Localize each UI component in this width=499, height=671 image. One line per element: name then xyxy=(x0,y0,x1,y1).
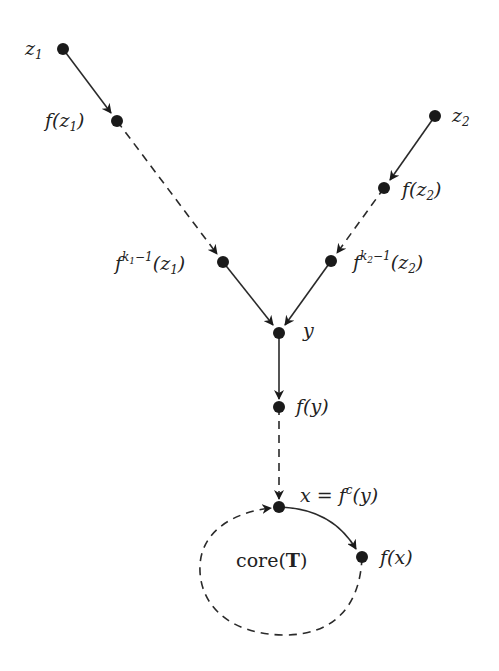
label-fk1z1: fk1−1(z1) xyxy=(113,250,185,277)
label-x: x = fc(y) xyxy=(300,483,378,506)
labels: z1 f(z1) fk1−1(z1) z2 f(z2) fk2−1(z2) y … xyxy=(24,37,470,571)
edge-fk2z2-y xyxy=(285,261,331,325)
label-fy: f(y) xyxy=(294,395,329,417)
node-z1 xyxy=(57,43,69,55)
label-z2: z2 xyxy=(451,104,470,129)
node-fx xyxy=(356,551,368,563)
node-fk2z2 xyxy=(325,255,337,267)
edge-fz2-fk2z2 xyxy=(337,188,384,253)
edge-z1-fz1 xyxy=(63,49,111,113)
edge-z2-fz2 xyxy=(390,116,435,180)
edge-fz1-fk1z1 xyxy=(117,121,217,254)
edge-x-fx xyxy=(279,507,356,549)
label-fz2: f(z2) xyxy=(400,178,442,203)
node-fk1z1 xyxy=(217,256,229,268)
label-y: y xyxy=(302,319,314,341)
label-fz1: f(z1) xyxy=(43,109,85,134)
node-z2 xyxy=(429,110,441,122)
fixed-point-tree-diagram: z1 f(z1) fk1−1(z1) z2 f(z2) fk2−1(z2) y … xyxy=(0,0,499,671)
node-fy xyxy=(273,401,285,413)
nodes xyxy=(57,43,441,563)
label-z1: z1 xyxy=(24,37,43,62)
label-core-T: core(T) xyxy=(236,549,307,571)
edge-fk1z1-y xyxy=(223,262,273,325)
label-fx: f(x) xyxy=(378,546,413,568)
node-fz2 xyxy=(378,182,390,194)
node-fz1 xyxy=(111,115,123,127)
node-y xyxy=(273,327,285,339)
label-fk2z2: fk2−1(z2) xyxy=(351,249,423,276)
node-x xyxy=(273,501,285,513)
